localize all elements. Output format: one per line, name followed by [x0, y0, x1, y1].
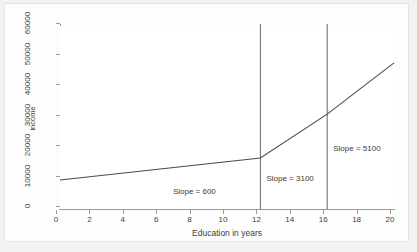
x-axis-tick-label: 16 — [311, 215, 335, 224]
x-axis-tick-label: 2 — [77, 215, 101, 224]
x-axis-tick-label: 14 — [278, 215, 302, 224]
x-axis-tick-label: 6 — [144, 215, 168, 224]
x-axis-tick-label: 12 — [244, 215, 268, 224]
x-axis-tick — [256, 210, 257, 214]
y-axis-tick — [56, 54, 60, 55]
chart-screenshot: income Education in years 01000020000300… — [0, 0, 417, 252]
x-axis-line — [59, 209, 395, 210]
y-axis-tick — [56, 115, 60, 116]
y-axis-tick-label: 50000 — [4, 50, 52, 58]
plot-svg — [60, 26, 394, 209]
x-axis-tick — [89, 210, 90, 214]
x-axis-tick — [290, 210, 291, 214]
y-axis-tick-label: 20000 — [4, 141, 52, 149]
x-axis-tick-label: 18 — [345, 215, 369, 224]
x-axis-tick — [156, 210, 157, 214]
y-axis-tick — [56, 176, 60, 177]
x-axis-tick-label: 20 — [378, 215, 402, 224]
y-axis-tick-label: 40000 — [4, 80, 52, 88]
y-axis-tick-label: 30000 — [4, 111, 52, 119]
y-axis-tick-label: 10000 — [4, 172, 52, 180]
x-axis-tick-label: 10 — [211, 215, 235, 224]
slope-annotation-2: Slope = 5100 — [333, 144, 380, 153]
x-axis-tick — [190, 210, 191, 214]
y-axis-tick — [56, 145, 60, 146]
slope-annotation-0: Slope = 600 — [173, 187, 216, 196]
x-axis-tick — [323, 210, 324, 214]
x-axis-tick — [223, 210, 224, 214]
y-axis-tick — [56, 206, 60, 207]
x-axis-tick-label: 8 — [178, 215, 202, 224]
x-axis-tick — [56, 210, 57, 214]
x-axis-tick — [390, 210, 391, 214]
slope-annotation-1: Slope = 3100 — [266, 174, 313, 183]
x-axis-tick-label: 0 — [44, 215, 68, 224]
x-axis-tick-label: 4 — [111, 215, 135, 224]
y-axis-tick-label: 0 — [4, 202, 52, 210]
graph-region: income Education in years 01000020000300… — [4, 3, 409, 242]
y-axis-tick — [56, 84, 60, 85]
plot-area — [60, 26, 394, 209]
y-axis-tick — [56, 23, 60, 24]
x-axis-tick — [123, 210, 124, 214]
x-axis-tick — [357, 210, 358, 214]
y-axis-tick-label: 60000 — [4, 19, 52, 27]
data-line-income — [60, 63, 394, 180]
x-axis-title: Education in years — [60, 228, 394, 238]
